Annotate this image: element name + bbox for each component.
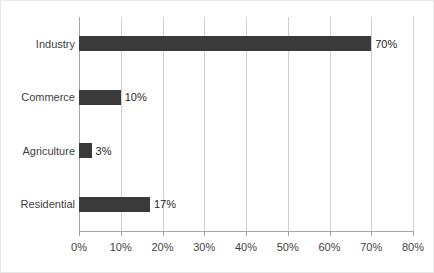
bar-value-label-agriculture: 3%: [96, 145, 112, 157]
x-tick-label-70: 70%: [360, 241, 382, 253]
bar-row: 3%: [79, 143, 413, 158]
x-tick-mark-10: [121, 231, 122, 236]
x-tick-label-0: 0%: [71, 241, 87, 253]
x-tick-label-30: 30%: [193, 241, 215, 253]
bar-commerce[interactable]: [79, 90, 121, 105]
x-tick-mark-30: [204, 231, 205, 236]
x-tick-mark-20: [163, 231, 164, 236]
category-label-industry: Industry: [3, 38, 75, 50]
x-tick-mark-0: [79, 231, 80, 236]
category-label-residential: Residential: [3, 198, 75, 210]
bar-agriculture[interactable]: [79, 143, 92, 158]
x-tick-label-80: 80%: [402, 241, 424, 253]
chart-container: 70%10%3%17% IndustryCommerceAgricultureR…: [0, 0, 434, 273]
bar-row: 70%: [79, 36, 413, 51]
plot-area: 70%10%3%17%: [79, 17, 413, 231]
x-tick-label-20: 20%: [151, 241, 173, 253]
x-tick-label-50: 50%: [277, 241, 299, 253]
bar-industry[interactable]: [79, 36, 371, 51]
category-label-commerce: Commerce: [3, 91, 75, 103]
x-axis-tick-labels: 0%10%20%30%40%50%60%70%80%: [1, 241, 434, 261]
bar-row: 10%: [79, 90, 413, 105]
gridline-80: [413, 17, 414, 231]
x-tick-mark-60: [330, 231, 331, 236]
bar-row: 17%: [79, 197, 413, 212]
x-tick-label-10: 10%: [110, 241, 132, 253]
x-tick-label-60: 60%: [318, 241, 340, 253]
bar-residential[interactable]: [79, 197, 150, 212]
x-tick-mark-50: [288, 231, 289, 236]
category-axis-labels: IndustryCommerceAgricultureResidential: [1, 1, 75, 273]
x-tick-mark-70: [371, 231, 372, 236]
bar-value-label-residential: 17%: [154, 198, 176, 210]
bar-value-label-industry: 70%: [375, 38, 397, 50]
category-label-agriculture: Agriculture: [3, 145, 75, 157]
bar-value-label-commerce: 10%: [125, 91, 147, 103]
x-tick-mark-80: [413, 231, 414, 236]
x-tick-mark-40: [246, 231, 247, 236]
x-tick-label-40: 40%: [235, 241, 257, 253]
